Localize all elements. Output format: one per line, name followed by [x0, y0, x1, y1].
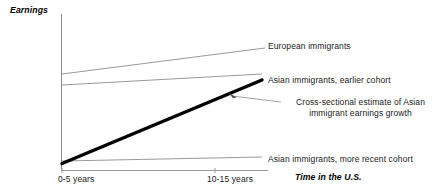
annotation-line-2: immigrant earnings growth: [309, 108, 412, 118]
annotation-line-1: Cross-sectional estimate of Asian: [296, 97, 425, 107]
series-label-asian-recent: Asian immigrants, more recent cohort: [268, 154, 413, 165]
series-line-european: [62, 48, 265, 74]
x-axis-tick-label-1: 10-15 years: [207, 174, 253, 185]
x-axis-title: Time in the U.S.: [295, 172, 362, 183]
series-label-european: European immigrants: [268, 41, 351, 52]
series-line-asian-recent: [62, 157, 262, 161]
chart-figure: Earnings Time in the U.S. 0-5 years 10-1…: [0, 0, 446, 194]
series-line-cross-sectional: [62, 80, 262, 164]
series-line-asian-earlier: [62, 74, 262, 85]
x-axis-tick-label-0: 0-5 years: [58, 174, 94, 185]
series-label-asian-earlier: Asian immigrants, earlier cohort: [268, 75, 391, 86]
annotation-leader-line: [232, 96, 281, 102]
annotation-cross-sectional: Cross-sectional estimate of Asian immigr…: [283, 97, 438, 118]
y-axis-title: Earnings: [10, 5, 48, 16]
